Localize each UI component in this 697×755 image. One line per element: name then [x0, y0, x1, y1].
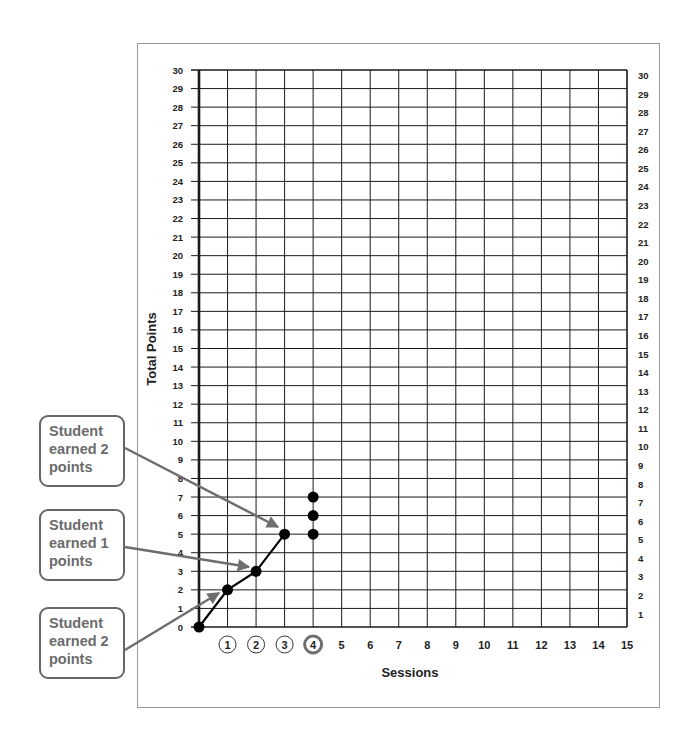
annotation-arrow-3 [125, 593, 219, 650]
right-y-tick-label: 4 [638, 553, 644, 564]
y-tick-label: 18 [172, 287, 183, 298]
right-y-tick-label: 27 [638, 126, 649, 137]
y-tick-label: 9 [178, 454, 183, 465]
right-y-tick-label: 29 [638, 89, 649, 100]
right-y-tick-label: 22 [638, 219, 649, 230]
right-y-tick-label: 24 [638, 181, 649, 192]
x-tick-label: 1 [224, 639, 230, 651]
y-tick-label: 5 [178, 529, 184, 540]
y-tick-label: 23 [172, 194, 183, 205]
right-y-tick-label: 15 [638, 349, 649, 360]
y-tick-label: 0 [178, 622, 183, 633]
right-y-tick-label: 20 [638, 256, 649, 267]
y-tick-label: 26 [172, 139, 183, 150]
right-y-tick-label: 10 [638, 441, 649, 452]
y-tick-label: 27 [172, 120, 183, 131]
right-y-tick-label: 16 [638, 330, 649, 341]
y-tick-label: 19 [172, 269, 183, 280]
right-y-tick-label: 18 [638, 293, 649, 304]
x-tick-label: 12 [535, 639, 547, 651]
data-point [279, 529, 290, 540]
y-tick-label: 20 [172, 250, 183, 261]
y-tick-label: 25 [172, 157, 183, 168]
callout-session-1: Student earned 2 points [39, 607, 125, 679]
x-tick-label: 4 [310, 639, 317, 651]
right-y-tick-label: 3 [638, 571, 643, 582]
y-tick-label: 16 [172, 324, 183, 335]
x-tick-label: 13 [564, 639, 576, 651]
x-tick-label: 8 [424, 639, 430, 651]
x-tick-label: 6 [367, 639, 373, 651]
data-point [222, 584, 233, 595]
right-y-tick-label: 28 [638, 107, 649, 118]
right-y-tick-label: 8 [638, 479, 643, 490]
right-y-tick-label: 9 [638, 460, 643, 471]
y-tick-label: 11 [173, 417, 184, 428]
right-y-tick-label: 30 [638, 70, 649, 81]
right-y-tick-label: 6 [638, 516, 643, 527]
x-tick-label: 11 [507, 639, 519, 651]
y-tick-label: 28 [172, 102, 183, 113]
data-point [251, 566, 262, 577]
x-axis-title: Sessions [381, 665, 438, 680]
callout-session-2: Student earned 1 points [39, 509, 125, 581]
right-y-tick-label: 12 [638, 404, 649, 415]
y-tick-label: 7 [178, 492, 183, 503]
right-y-tick-label: 11 [638, 423, 649, 434]
right-y-tick-label: 14 [638, 367, 649, 378]
data-point [194, 622, 205, 633]
y-tick-label: 10 [172, 436, 183, 447]
right-y-tick-label: 19 [638, 274, 649, 285]
y-tick-label: 29 [172, 83, 183, 94]
right-y-tick-label: 25 [638, 163, 649, 174]
data-point-unconnected [308, 492, 319, 503]
y-tick-label: 12 [172, 399, 183, 410]
right-y-tick-label: 7 [638, 497, 643, 508]
x-tick-label: 2 [253, 639, 259, 651]
y-tick-label: 1 [178, 603, 184, 614]
data-line [199, 534, 285, 627]
y-tick-label: 30 [172, 65, 183, 76]
x-tick-label: 7 [396, 639, 402, 651]
x-tick-label: 14 [592, 639, 605, 651]
y-tick-label: 3 [178, 566, 183, 577]
callout-session-3: Student earned 2 points [39, 415, 125, 487]
x-tick-label: 5 [339, 639, 345, 651]
x-tick-label: 3 [282, 639, 288, 651]
y-tick-label: 17 [172, 306, 183, 317]
y-tick-label: 13 [172, 380, 183, 391]
x-tick-label: 15 [621, 639, 633, 651]
data-point-unconnected [308, 510, 319, 521]
data-point-unconnected [308, 529, 319, 540]
right-y-tick-label: 21 [638, 237, 649, 248]
right-y-tick-label: 23 [638, 200, 649, 211]
right-y-tick-label: 26 [638, 144, 649, 155]
right-y-tick-label: 13 [638, 386, 649, 397]
y-tick-label: 14 [172, 362, 183, 373]
y-tick-label: 24 [172, 176, 183, 187]
x-tick-label: 10 [478, 639, 490, 651]
annotation-arrow-2 [125, 547, 249, 567]
y-tick-label: 21 [172, 232, 183, 243]
x-tick-label: 9 [453, 639, 459, 651]
right-y-tick-label: 5 [638, 534, 644, 545]
right-y-tick-label: 17 [638, 311, 649, 322]
right-y-tick-label: 1 [638, 609, 644, 620]
y-tick-label: 6 [178, 510, 183, 521]
y-tick-label: 15 [172, 343, 183, 354]
right-y-tick-label: 2 [638, 590, 643, 601]
y-tick-label: 2 [178, 584, 183, 595]
y-axis-title: Total Points [144, 312, 159, 385]
y-tick-label: 22 [172, 213, 183, 224]
